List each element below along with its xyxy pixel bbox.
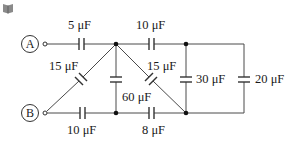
capacitor-15uf-left-label: 15 μF — [49, 60, 78, 73]
terminal-b-label: B — [21, 104, 39, 122]
terminal-a-label: A — [21, 35, 39, 53]
capacitor-10uf-top-label: 10 μF — [136, 19, 165, 32]
capacitor-10uf-bottom-label: 10 μF — [67, 124, 96, 137]
capacitor-20uf-label: 20 μF — [255, 73, 284, 86]
circuit-diagram: A B 5 μF 10 μF 15 μF 15 μF 60 μF 30 μF 2… — [0, 0, 297, 142]
capacitor-5uf-label: 5 μF — [68, 19, 91, 32]
capacitor-30uf-label: 30 μF — [196, 73, 225, 86]
capacitor-8uf-label: 8 μF — [142, 124, 165, 137]
capacitor-60uf-label: 60 μF — [122, 91, 151, 104]
capacitor-15uf-right-label: 15 μF — [147, 60, 176, 73]
